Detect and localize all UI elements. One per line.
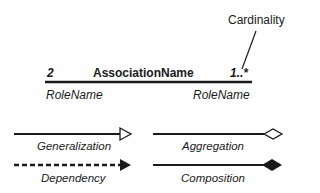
aggregation-label: Aggregation <box>182 141 244 153</box>
filled-triangle-icon <box>120 159 131 171</box>
association-name: AssociationName <box>93 67 194 79</box>
multiplicity-left: 2 <box>47 67 54 79</box>
role-name-right: RoleName <box>193 89 250 101</box>
cardinality-leader-line <box>242 31 256 69</box>
filled-diamond-icon <box>262 159 282 171</box>
dependency-label: Dependency <box>41 173 106 185</box>
hollow-triangle-icon <box>120 128 131 140</box>
generalization-label: Generalization <box>37 141 111 153</box>
cardinality-callout: Cardinality <box>228 14 285 26</box>
role-name-left: RoleName <box>46 89 103 101</box>
multiplicity-right: 1..* <box>230 67 248 79</box>
composition-label: Composition <box>181 173 245 185</box>
hollow-diamond-icon <box>264 129 282 139</box>
